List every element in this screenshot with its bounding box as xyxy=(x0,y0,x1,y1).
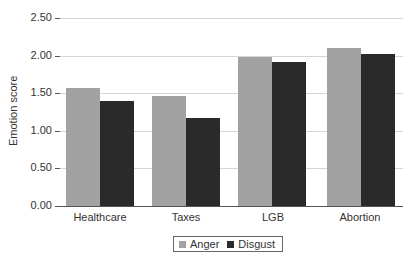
anger-swatch-icon xyxy=(179,241,186,248)
y-tick xyxy=(55,168,60,169)
y-tick-label-2: 1.00 xyxy=(18,124,52,136)
y-tick-label-4: 2.00 xyxy=(18,49,52,61)
bar-abortion-anger xyxy=(327,48,361,206)
x-tick-label-abortion: Abortion xyxy=(320,211,400,223)
legend-label-anger: Anger xyxy=(190,238,219,250)
x-axis-line xyxy=(58,206,403,207)
bar-lgb-anger xyxy=(238,57,272,206)
bar-healthcare-disgust xyxy=(100,101,134,206)
y-tick xyxy=(55,56,60,57)
bar-taxes-anger xyxy=(152,96,186,206)
y-tick-label-3: 1.50 xyxy=(18,86,52,98)
legend: Anger Disgust xyxy=(173,236,283,252)
bar-lgb-disgust xyxy=(272,62,306,206)
gridline xyxy=(58,18,403,19)
y-tick xyxy=(55,18,60,19)
x-tick-label-healthcare: Healthcare xyxy=(60,211,140,223)
disgust-swatch-icon xyxy=(227,241,234,248)
y-tick-label-1: 0.50 xyxy=(18,161,52,173)
y-tick-label-5: 2.50 xyxy=(18,11,52,23)
y-tick xyxy=(55,131,60,132)
y-tick-label-0: 0.00 xyxy=(18,199,52,211)
bar-taxes-disgust xyxy=(186,118,220,206)
legend-item-anger: Anger xyxy=(179,238,219,250)
bar-chart: Emotion score 0.00 0.50 1.00 1.50 2.00 2… xyxy=(0,0,413,268)
bar-healthcare-anger xyxy=(66,88,100,206)
legend-item-disgust: Disgust xyxy=(227,238,275,250)
y-tick xyxy=(55,93,60,94)
x-tick-label-taxes: Taxes xyxy=(146,211,226,223)
x-tick-label-lgb: LGB xyxy=(233,211,313,223)
legend-label-disgust: Disgust xyxy=(238,238,275,250)
bar-abortion-disgust xyxy=(361,54,395,206)
